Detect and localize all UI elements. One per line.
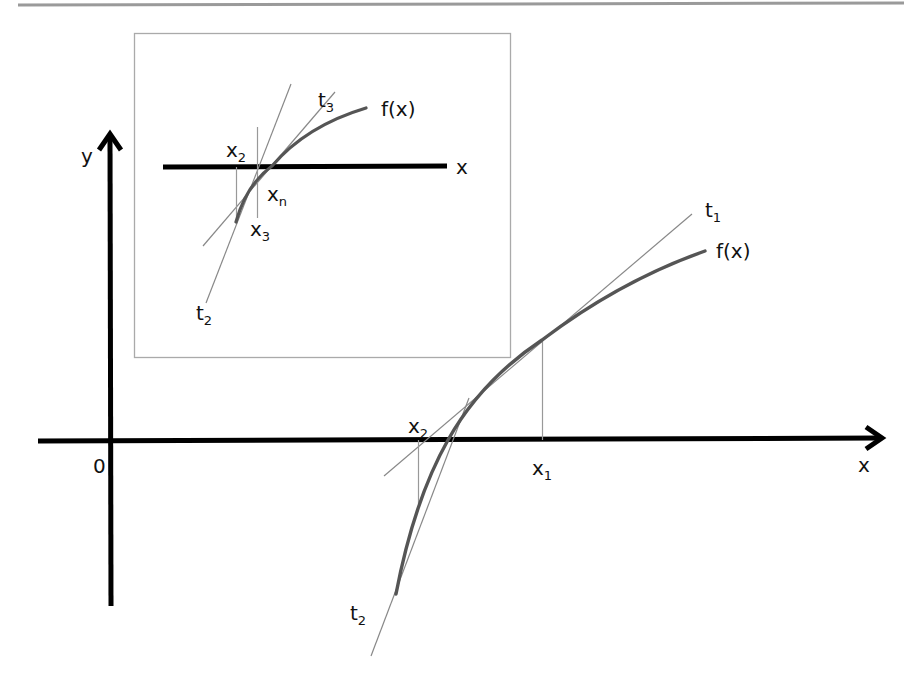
top-rule [18, 3, 904, 5]
label-x2: x2 [408, 416, 428, 436]
inset-label-fx: f(x) [381, 99, 415, 119]
label-x1: x1 [532, 458, 552, 478]
y-axis [110, 137, 111, 606]
x-axis-label: x [858, 455, 870, 475]
y-axis-label: y [81, 146, 93, 166]
label-t1: t1 [705, 200, 721, 220]
inset-label-t3: t3 [318, 90, 334, 110]
x-axis [38, 438, 880, 441]
newton-method-diagram [0, 0, 923, 683]
inset-x-axis [163, 166, 447, 167]
inset-label-t2: t2 [196, 303, 212, 323]
inset-panel [135, 34, 511, 358]
inset-label-x3: x3 [250, 219, 270, 239]
label-fx: f(x) [716, 241, 750, 261]
inset-label-x2: x2 [226, 140, 246, 160]
inset-label-xn: xn [267, 184, 287, 204]
origin-label: 0 [93, 456, 106, 476]
label-t2: t2 [350, 603, 366, 623]
inset-border [135, 34, 511, 358]
inset-label-x-axis: x [456, 157, 468, 177]
